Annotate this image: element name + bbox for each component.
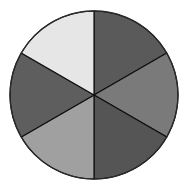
pie-diagram (0, 0, 187, 192)
